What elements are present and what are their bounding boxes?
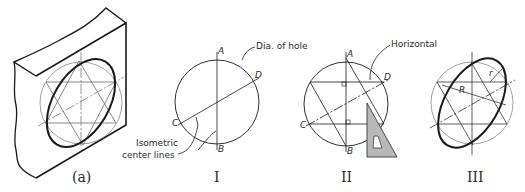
caption-panel-II: II: [341, 170, 352, 184]
point-II-B: B: [347, 147, 353, 156]
figure-drawing: [0, 0, 525, 192]
label-dia-of-hole: Dia. of hole: [256, 42, 307, 51]
point-II-A: A: [347, 50, 353, 59]
point-I-C: C: [172, 119, 178, 128]
label-isometric-line1: Isometric: [136, 139, 178, 148]
panel-III-construction: [424, 47, 520, 159]
label-horizontal: Horizontal: [391, 40, 437, 49]
caption-panel-III: III: [467, 170, 484, 184]
label-isometric-line2: center lines: [122, 151, 175, 160]
point-I-D: D: [255, 71, 262, 80]
caption-panel-a: (a): [72, 170, 91, 184]
point-I-B: B: [218, 145, 224, 154]
caption-panel-I: I: [214, 170, 220, 184]
isometric-circle-construction-figure: (a) I II III Dia. of hole Isometric cent…: [0, 0, 525, 192]
label-r: r: [489, 69, 493, 78]
panel-II-construction: [304, 45, 397, 157]
point-II-D: D: [384, 73, 391, 82]
label-R: R: [459, 86, 465, 95]
point-I-A: A: [218, 47, 224, 56]
point-II-C: C: [300, 121, 306, 130]
panel-I-construction: [175, 47, 259, 154]
panel-a-block: [14, 8, 129, 178]
